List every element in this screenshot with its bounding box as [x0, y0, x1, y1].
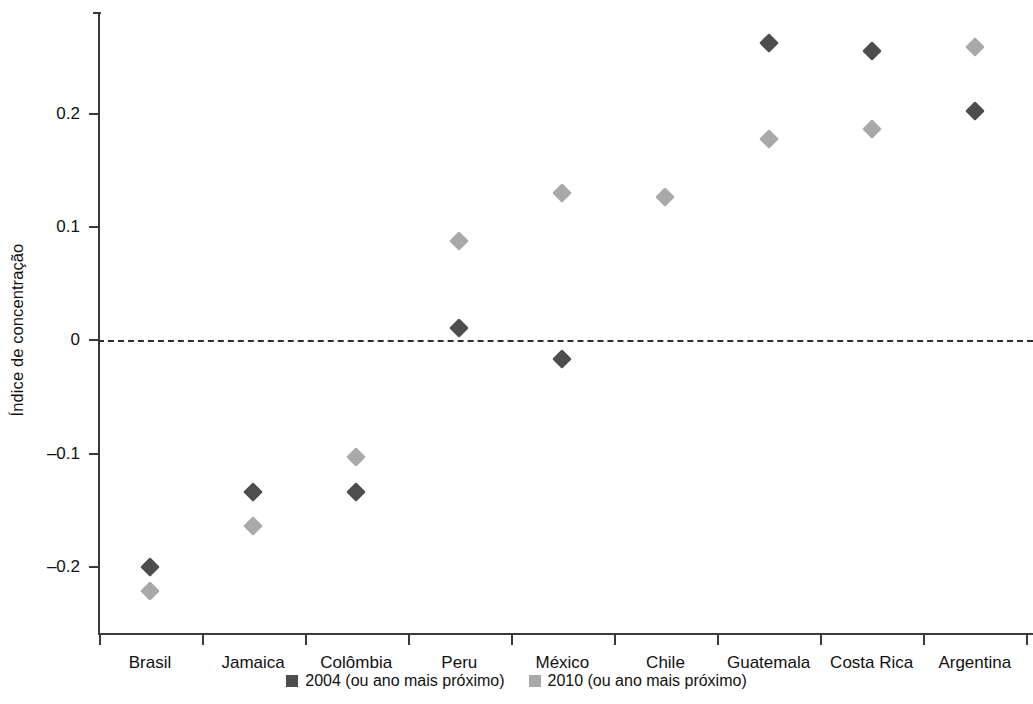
data-point-marker [140, 581, 160, 601]
data-point-marker [862, 41, 882, 61]
y-axis-tick-label: –0.1 [47, 444, 80, 464]
x-axis-tick [820, 633, 822, 645]
x-axis-category-label: Brasil [129, 653, 172, 673]
plot-area: 0.20.10–0.1–0.2 BrasilJamaicaColômbiaPer… [98, 12, 1033, 635]
data-point-marker [449, 231, 469, 251]
x-axis-tick [99, 633, 101, 645]
data-point-marker [449, 318, 469, 338]
legend-swatch-icon [286, 675, 298, 687]
data-point-marker [862, 119, 882, 139]
data-point-marker [553, 349, 573, 369]
x-axis-category-label: Costa Rica [830, 653, 913, 673]
data-point-marker [759, 33, 779, 53]
legend-entry: 2004 (ou ano mais próximo) [286, 672, 504, 690]
x-axis-tick [511, 633, 513, 645]
y-axis-top-cap [93, 12, 101, 14]
y-axis-tick-label: 0.1 [56, 217, 80, 237]
x-axis-tick [923, 633, 925, 645]
data-point-marker [346, 482, 366, 502]
concentration-index-scatter-chart: Índice de concentração 0.20.10–0.1–0.2 B… [0, 0, 1033, 704]
x-axis-category-label: México [535, 653, 589, 673]
data-point-marker [346, 447, 366, 467]
x-axis-tick [305, 633, 307, 645]
x-axis-tick [614, 633, 616, 645]
chart-legend: 2004 (ou ano mais próximo)2010 (ou ano m… [0, 672, 1033, 690]
x-axis-tick [1026, 633, 1028, 645]
y-axis-tick: –0.1 [89, 453, 99, 455]
data-point-marker [140, 557, 160, 577]
y-axis-line [98, 12, 100, 635]
x-axis-category-label: Peru [441, 653, 477, 673]
data-point-marker [965, 37, 985, 57]
zero-reference-line [98, 340, 1033, 342]
y-axis-tick-label: –0.2 [47, 557, 80, 577]
x-axis-tick [408, 633, 410, 645]
y-axis-tick-label: 0.2 [56, 104, 80, 124]
x-axis-category-label: Guatemala [727, 653, 810, 673]
x-axis-category-label: Colômbia [320, 653, 392, 673]
x-axis-tick [202, 633, 204, 645]
x-axis-category-label: Chile [646, 653, 685, 673]
data-point-marker [553, 183, 573, 203]
legend-swatch-icon [529, 675, 541, 687]
x-axis-tick [717, 633, 719, 645]
legend-label: 2004 (ou ano mais próximo) [305, 672, 504, 690]
y-axis-tick-label: 0 [71, 330, 80, 350]
data-point-marker [243, 482, 263, 502]
y-axis-tick: 0.1 [89, 226, 99, 228]
x-axis-category-label: Jamaica [221, 653, 284, 673]
y-axis-tick: 0.2 [89, 113, 99, 115]
x-axis-line [98, 633, 1033, 635]
legend-label: 2010 (ou ano mais próximo) [548, 672, 747, 690]
data-point-marker [965, 101, 985, 121]
legend-entry: 2010 (ou ano mais próximo) [529, 672, 747, 690]
data-point-marker [759, 129, 779, 149]
data-point-marker [656, 187, 676, 207]
data-point-marker [243, 516, 263, 536]
x-axis-category-label: Argentina [938, 653, 1011, 673]
y-axis-title: Índice de concentração [0, 0, 34, 660]
y-axis-tick: –0.2 [89, 566, 99, 568]
